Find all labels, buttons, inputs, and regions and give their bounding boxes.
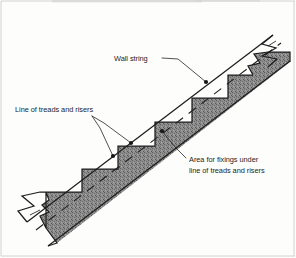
leader-dot-treads-upper bbox=[129, 141, 133, 145]
label-line-of-treads-and-risers: Line of treads and risers bbox=[15, 105, 93, 114]
label-area-for-fixings-line2: line of treads and risers bbox=[189, 166, 265, 175]
leader-dot-treads-lower bbox=[111, 154, 115, 158]
string-hatched-area bbox=[40, 52, 290, 243]
label-wall-string: Wall string bbox=[114, 54, 148, 63]
leader-dot-wall-string bbox=[204, 80, 208, 84]
leader-lines bbox=[92, 58, 208, 158]
stair-diagram-canvas: Wall string Line of treads and risers Ar… bbox=[0, 0, 296, 258]
stair-wall-string-figure: Wall string Line of treads and risers Ar… bbox=[0, 0, 296, 258]
leader-dot-fixings bbox=[160, 129, 164, 133]
label-area-for-fixings-line1: Area for fixings under bbox=[189, 155, 259, 164]
